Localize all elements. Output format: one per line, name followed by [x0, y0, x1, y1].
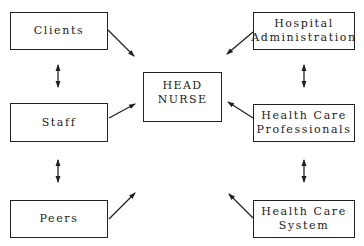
head-nurse-line2: NURSE	[158, 93, 208, 107]
hospital-admin-line1: Hospital	[274, 17, 334, 31]
hc-professionals-line1: Health Care	[261, 109, 347, 123]
box-peers: Peers	[10, 200, 108, 238]
box-health-care-system: Health Care System	[253, 200, 355, 238]
box-hospital-administration: Hospital Administration	[253, 12, 355, 50]
arrow-clients-to-head-nurse	[108, 30, 134, 56]
box-health-care-professionals: Health Care Professionals	[253, 104, 355, 142]
hospital-admin-line2: Administration	[251, 31, 356, 45]
head-nurse-line1: HEAD	[163, 79, 203, 93]
box-head-nurse: HEAD NURSE	[143, 72, 222, 122]
box-staff: Staff	[10, 103, 108, 142]
hc-system-line1: Health Care	[261, 205, 347, 219]
arrow-admin-to-head-nurse	[227, 32, 253, 54]
staff-label: Staff	[42, 116, 77, 130]
arrow-system-to-head-nurse	[229, 194, 253, 218]
arrow-professionals-to-head-nurse	[228, 102, 253, 118]
clients-label: Clients	[34, 24, 84, 38]
arrow-staff-to-head-nurse	[109, 104, 135, 118]
arrow-peers-to-head-nurse	[109, 193, 135, 219]
peers-label: Peers	[40, 212, 79, 226]
hc-system-line2: System	[279, 219, 329, 233]
hc-professionals-line2: Professionals	[257, 123, 352, 137]
box-clients: Clients	[10, 12, 108, 50]
